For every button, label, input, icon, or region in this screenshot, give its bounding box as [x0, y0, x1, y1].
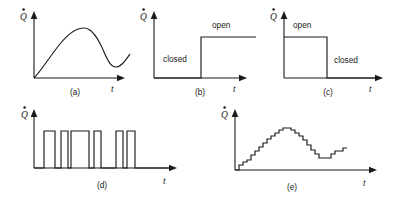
y-axis-label-dot-icon: [22, 8, 25, 11]
y-axis-label-dot-icon: [272, 8, 275, 11]
y-axis-label: Q: [140, 12, 147, 22]
panel-b-closed-label: closed: [163, 54, 187, 64]
x-axis-arrow-icon: [117, 75, 125, 82]
x-axis-label: t: [111, 84, 114, 94]
y-axis-arrow-icon: [151, 11, 158, 19]
y-axis-label: Q: [21, 110, 28, 120]
panel-d-caption: (d): [97, 180, 107, 190]
y-axis-label-dot-icon: [23, 106, 26, 109]
x-axis-label: t: [163, 176, 166, 186]
y-axis-arrow-icon: [31, 109, 38, 117]
panel-e-caption: (e): [287, 182, 297, 192]
panel-c-caption: (c): [323, 87, 333, 97]
panel-b-caption: (b): [195, 87, 205, 97]
y-axis-label-group: Q: [270, 8, 277, 22]
y-axis-label-dot-icon: [142, 8, 145, 11]
panel-b-open-label: open: [212, 20, 231, 30]
figure-root: Q t (a) Q t closed open (b): [0, 0, 398, 198]
panel-c-open-label: open: [293, 20, 312, 30]
y-axis-label-group: Q: [21, 106, 28, 120]
panel-a-curve: [34, 28, 130, 78]
x-axis-label: t: [363, 178, 366, 188]
y-axis-label: Q: [270, 12, 277, 22]
y-axis-label-group: Q: [20, 8, 27, 22]
panel-b-axes: [151, 11, 247, 81]
panel-a-caption: (a): [70, 87, 80, 97]
panel-d-pulse-train: [34, 131, 170, 168]
x-axis-arrow-icon: [239, 75, 247, 82]
panel-a-axes: [31, 11, 125, 81]
y-axis-label-group: Q: [221, 106, 228, 120]
x-axis-arrow-icon: [369, 167, 377, 174]
panel-d-axes: [31, 109, 177, 171]
x-axis-label: t: [369, 84, 372, 94]
panel-c-closed-label: closed: [334, 55, 358, 65]
x-axis-arrow-icon: [169, 165, 177, 172]
panel-e-staircase-curve: [235, 128, 347, 170]
y-axis-arrow-icon: [31, 11, 38, 19]
y-axis-label: Q: [20, 12, 27, 22]
panel-e: Q t (e): [200, 100, 398, 198]
panel-e-axes: [232, 109, 377, 173]
y-axis-arrow-icon: [281, 11, 288, 19]
y-axis-label: Q: [221, 110, 228, 120]
y-axis-label-dot-icon: [223, 106, 226, 109]
y-axis-label-group: Q: [140, 8, 147, 22]
panel-d: Q t (d): [20, 100, 200, 198]
panel-b: Q t closed open (b): [130, 0, 262, 100]
panel-c: Q t open closed (c): [262, 0, 398, 100]
panel-c-step-curve: [284, 37, 380, 78]
panel-a: Q t (a): [0, 0, 140, 100]
y-axis-arrow-icon: [232, 109, 239, 117]
x-axis-label: t: [233, 84, 236, 94]
